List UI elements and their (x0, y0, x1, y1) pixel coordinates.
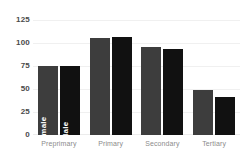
bar-group-primary (86, 20, 136, 135)
bar-tertiary-female[interactable] (193, 90, 213, 135)
bar-group-secondary (137, 20, 187, 135)
y-tick-label-25: 25 (0, 108, 30, 116)
x-tick-label-tertiary: Tertiary (189, 139, 239, 153)
x-axis: Preprimary Primary Secondary Tertiary (33, 139, 240, 153)
bar-primary-female[interactable] (90, 38, 110, 135)
bar-groups: Female Male (33, 20, 240, 135)
bar-preprimary-female[interactable]: Female (38, 66, 58, 135)
bar-secondary-male[interactable] (163, 49, 183, 135)
y-axis: 125 100 75 50 25 0 (0, 20, 30, 135)
bar-secondary-female[interactable] (141, 47, 161, 135)
x-tick-label-secondary: Secondary (137, 139, 187, 153)
bar-tertiary-male[interactable] (215, 97, 235, 135)
y-tick-label-100: 100 (0, 39, 30, 47)
bar-preprimary-male[interactable]: Male (60, 66, 80, 135)
x-tick-label-primary: Primary (86, 139, 136, 153)
bar-primary-male[interactable] (112, 37, 132, 135)
bar-group-preprimary: Female Male (34, 20, 84, 135)
bar-group-tertiary (189, 20, 239, 135)
y-tick-label-125: 125 (0, 16, 30, 24)
series-label-male: Male (61, 122, 70, 141)
y-tick-label-75: 75 (0, 62, 30, 70)
y-tick-label-50: 50 (0, 85, 30, 93)
bar-chart: 125 100 75 50 25 0 Female Male (0, 0, 244, 160)
x-tick-label-preprimary: Preprimary (34, 139, 84, 153)
y-tick-label-0: 0 (0, 131, 30, 139)
